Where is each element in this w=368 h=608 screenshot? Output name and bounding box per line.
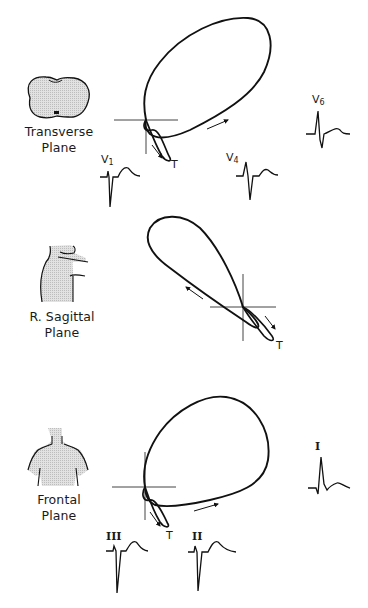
frontal-plane-label: Frontal Plane xyxy=(14,492,104,524)
transverse-plane-label: Transverse Plane xyxy=(14,124,104,156)
frontal-plane-label-line2: Plane xyxy=(14,508,104,524)
sagittal-plane-label: R. Sagittal Plane xyxy=(12,309,112,341)
lead-label-v6: V6 xyxy=(312,93,325,107)
transverse-plane-label-line2: Plane xyxy=(14,140,104,156)
lead-label-v1-name: V xyxy=(101,153,109,166)
frontal-torso-icon xyxy=(28,428,88,486)
sagittal-plane-label-line1: R. Sagittal xyxy=(12,309,112,325)
ecg-trace-lead-iii xyxy=(106,542,148,593)
frontal-qrs-arrow xyxy=(194,504,218,511)
lead-label-v4-name: V xyxy=(226,151,234,164)
sagittal-plane-label-line2: Plane xyxy=(12,325,112,341)
sagittal-t-label: T xyxy=(276,339,283,352)
lead-label-v6-sub: 6 xyxy=(320,98,325,107)
lead-label-v4: V4 xyxy=(226,151,239,165)
sagittal-t-arrow xyxy=(265,316,275,329)
transverse-qrs-arrow xyxy=(207,120,228,129)
frontal-qrs-loop xyxy=(144,397,268,507)
ecg-trace-v4 xyxy=(236,162,278,200)
transverse-torso-icon xyxy=(28,77,89,118)
lead-label-i: I xyxy=(315,440,320,453)
frontal-plane-label-line1: Frontal xyxy=(14,492,104,508)
transverse-t-loop xyxy=(144,120,170,161)
transverse-panel xyxy=(28,18,350,207)
lead-label-v1-sub: 1 xyxy=(109,158,114,167)
frontal-t-label: T xyxy=(166,529,173,542)
transverse-plane-label-line1: Transverse xyxy=(14,124,104,140)
sagittal-shoulder-icon xyxy=(41,245,88,302)
ecg-trace-v6 xyxy=(306,111,350,148)
ecg-trace-lead-i xyxy=(308,457,350,494)
lead-label-ii: II xyxy=(192,530,202,543)
sagittal-qrs-arrow xyxy=(186,287,203,299)
lead-label-iii: III xyxy=(106,530,121,543)
lead-label-v6-name: V xyxy=(312,93,320,106)
lead-label-v1: V1 xyxy=(101,153,114,167)
sagittal-qrs-loop xyxy=(148,217,259,328)
ecg-trace-v1 xyxy=(100,168,140,207)
lead-label-v4-sub: 4 xyxy=(234,156,239,165)
transverse-t-label: T xyxy=(171,158,178,171)
ecg-trace-lead-ii xyxy=(188,542,236,591)
